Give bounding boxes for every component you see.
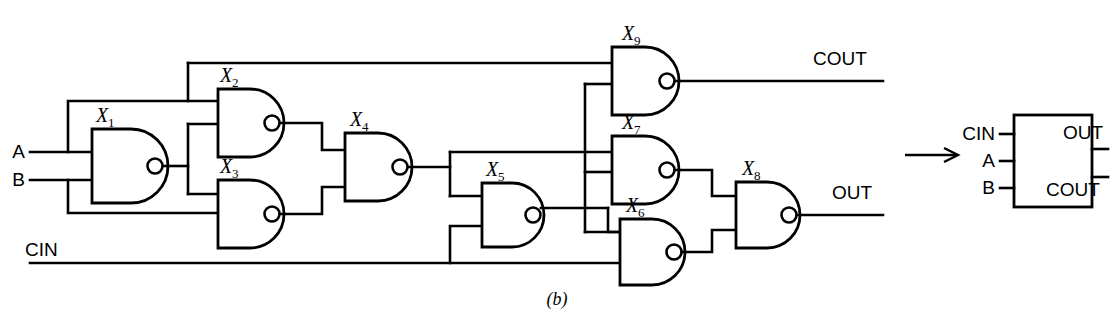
gate-x4-label: X [349,108,363,130]
gate-x6-bubble [667,245,682,260]
gate-x2-label: X [219,64,233,86]
gate-x2: X 2 [218,64,284,157]
gate-x5-bubble [526,208,541,223]
figure-caption: (b) [547,289,568,310]
wire-x7-to-x8 [675,170,736,196]
gate-x9-sub: 9 [634,33,641,48]
gate-x7-bubble [660,163,675,178]
gate-x7: X 7 [612,111,679,204]
gate-x7-sub: 7 [634,122,641,137]
gate-x2-bubble [265,116,280,131]
gate-x9: X 9 [612,22,679,115]
gate-x5: X 5 [482,158,544,247]
wire-x2-to-x4 [280,123,345,150]
full-adder-figure: X 1 X 2 X 3 X 4 [0,0,1115,328]
block-label-out: OUT [1063,122,1104,143]
gate-x1: X 1 [92,104,168,203]
gate-x6-label: X [625,194,639,216]
gate-x6-sub: 6 [638,205,645,220]
label-input-b: B [12,169,25,190]
block-label-cin: CIN [962,123,995,144]
label-output-cout: COUT [813,48,867,69]
gate-x8-bubble [782,208,797,223]
wire-x3-to-x4 [280,187,345,214]
gate-x4-sub: 4 [362,119,369,134]
block-label-a: A [982,150,995,171]
block-label-cout: COUT [1046,179,1100,200]
wire-x6-to-x8 [682,230,736,252]
wire-group-x1-out [163,124,218,194]
label-input-a: A [12,141,25,162]
gate-x2-sub: 2 [232,75,239,90]
block-symbol: CIN A B OUT COUT [962,115,1108,207]
gate-x3: X 3 [218,155,284,248]
gate-x5-sub: 5 [498,169,505,184]
gate-x7-label: X [621,111,635,133]
gate-x1-label: X [95,104,109,126]
gate-x6: X 6 [620,194,685,285]
gate-x4-bubble [393,160,408,175]
gate-x3-bubble [265,207,280,222]
wire-x5-to-x6 [608,208,620,232]
gate-x1-bubble [148,159,163,174]
gate-x5-label: X [485,158,499,180]
label-output-out: OUT [832,182,873,203]
gate-x8-sub: 8 [754,168,761,183]
gate-x4: X 4 [345,108,412,201]
gate-x3-sub: 3 [232,166,239,181]
equivalence-arrow-icon [905,148,958,162]
block-label-b: B [982,177,995,198]
gate-x8: X 8 [736,157,800,248]
gate-x1-sub: 1 [108,115,115,130]
wire-cin-to-x5 [450,226,482,263]
gate-x9-bubble [660,74,675,89]
gate-x3-label: X [219,155,233,177]
gate-x9-label: X [621,22,635,44]
label-input-cin: CIN [25,239,58,260]
gate-x8-label: X [741,157,755,179]
wire-group-x4-in [280,123,345,214]
wire-group-x5-out [541,208,620,232]
